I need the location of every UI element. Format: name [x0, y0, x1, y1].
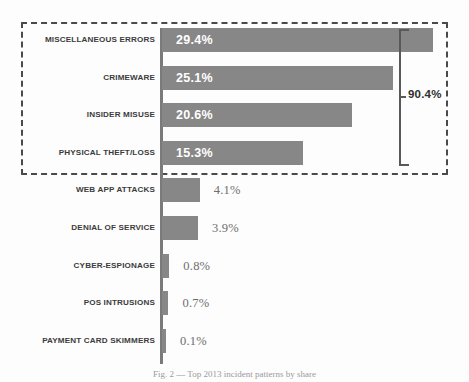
bar-category-label: POS INTRUSIONS — [0, 299, 155, 307]
cumulative-bracket-label: 90.4% — [408, 89, 442, 101]
bar — [162, 254, 169, 278]
table-row: DENIAL OF SERVICE3.9% — [0, 216, 469, 240]
bar-value-label: 29.4% — [176, 34, 213, 47]
bar-category-label: INSIDER MISUSE — [0, 111, 155, 119]
table-row: PAYMENT CARD SKIMMERS0.1% — [0, 329, 469, 353]
bar — [162, 291, 168, 315]
bar-value-label: 4.1% — [214, 184, 241, 197]
bar-value-label: 25.1% — [176, 71, 213, 84]
bar-category-label: PAYMENT CARD SKIMMERS — [0, 337, 155, 345]
bar-category-label: WEB APP ATTACKS — [0, 186, 155, 194]
table-row: CYBER-ESPIONAGE0.8% — [0, 254, 469, 278]
bar-value-label: 15.3% — [176, 147, 213, 160]
bar-category-label: CYBER-ESPIONAGE — [0, 262, 155, 270]
bar — [162, 329, 166, 353]
chart-figure: MISCELLANEOUS ERRORS29.4%CRIMEWARE25.1%I… — [0, 0, 469, 382]
table-row: POS INTRUSIONS0.7% — [0, 291, 469, 315]
bar-value-label: 0.7% — [182, 297, 209, 310]
bar-value-label: 20.6% — [176, 109, 213, 122]
bar-category-label: PHYSICAL THEFT/LOSS — [0, 149, 155, 157]
bar-category-label: MISCELLANEOUS ERRORS — [0, 36, 155, 44]
bar-category-label: CRIMEWARE — [0, 74, 155, 82]
bar — [162, 178, 200, 202]
bar-value-label: 0.8% — [183, 259, 210, 272]
cumulative-bracket-tick — [399, 96, 406, 98]
table-row: WEB APP ATTACKS4.1% — [0, 178, 469, 202]
bar-category-label: DENIAL OF SERVICE — [0, 224, 155, 232]
figure-caption: Fig. 2 — Top 2013 incident patterns by s… — [0, 370, 469, 380]
bar-value-label: 3.9% — [212, 222, 239, 235]
bar — [162, 216, 198, 240]
bar-value-label: 0.1% — [180, 335, 207, 348]
